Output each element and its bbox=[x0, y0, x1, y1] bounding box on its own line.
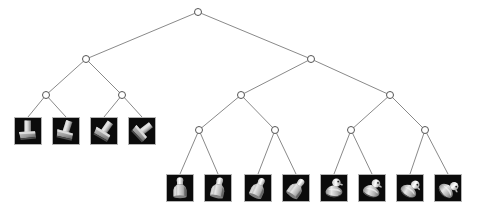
leaf-thumbnail-duck[interactable] bbox=[434, 174, 462, 202]
tree-node-n-ll[interactable] bbox=[43, 92, 50, 99]
leaf-thumbnail-bracket[interactable] bbox=[128, 117, 156, 145]
leaf-thumbnail-duck[interactable] bbox=[320, 174, 348, 202]
tree-edge bbox=[275, 130, 296, 174]
tree-node-n-l[interactable] bbox=[83, 56, 90, 63]
tree-edge bbox=[241, 95, 275, 130]
leaf-thumbnail-bracket[interactable] bbox=[52, 117, 80, 145]
tree-edge bbox=[28, 95, 46, 117]
tree-node-n-r[interactable] bbox=[308, 56, 315, 63]
tree-edge bbox=[46, 59, 86, 95]
leaf-thumbnail-bottle[interactable] bbox=[204, 174, 232, 202]
tree-node-n-lr[interactable] bbox=[119, 92, 126, 99]
leaf-thumbnail-bottle[interactable] bbox=[166, 174, 194, 202]
leaf-thumbnail-bottle[interactable] bbox=[282, 174, 310, 202]
tree-edge bbox=[410, 130, 425, 174]
tree-edge bbox=[199, 95, 241, 130]
tree-edge bbox=[122, 95, 142, 117]
tree-edge bbox=[180, 130, 199, 174]
tree-edge bbox=[334, 130, 351, 174]
tree-node-n-rll[interactable] bbox=[196, 127, 203, 134]
leaf-thumbnail-duck[interactable] bbox=[396, 174, 424, 202]
tree-edge bbox=[258, 130, 275, 174]
tree-edge bbox=[46, 95, 66, 117]
tree-edge bbox=[86, 59, 122, 95]
tree-node-n-rr[interactable] bbox=[387, 92, 394, 99]
tree-edge bbox=[311, 59, 390, 95]
tree-edge bbox=[390, 95, 425, 130]
tree-node-n-rlr[interactable] bbox=[272, 127, 279, 134]
tree-node-root[interactable] bbox=[195, 9, 202, 16]
tree-edge bbox=[104, 95, 122, 117]
leaf-thumbnail-bracket[interactable] bbox=[90, 117, 118, 145]
tree-edge bbox=[351, 95, 390, 130]
dendrogram-figure bbox=[0, 0, 477, 213]
tree-edge bbox=[425, 130, 448, 174]
tree-edge bbox=[86, 12, 198, 59]
tree-node-n-rrl[interactable] bbox=[348, 127, 355, 134]
leaf-thumbnail-bracket[interactable] bbox=[14, 117, 42, 145]
tree-node-n-rrr[interactable] bbox=[422, 127, 429, 134]
leaf-thumbnail-bottle[interactable] bbox=[244, 174, 272, 202]
tree-edge bbox=[198, 12, 311, 59]
tree-edge bbox=[351, 130, 372, 174]
leaf-thumbnail-duck[interactable] bbox=[358, 174, 386, 202]
tree-node-n-rl[interactable] bbox=[238, 92, 245, 99]
tree-edge bbox=[199, 130, 218, 174]
tree-edge bbox=[241, 59, 311, 95]
